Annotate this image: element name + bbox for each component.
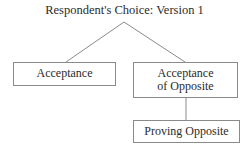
edge-title-to-acceptance-of-opposite xyxy=(124,22,185,62)
edge-title-to-acceptance xyxy=(66,22,124,62)
node-proving-opposite: Proving Opposite xyxy=(133,120,240,143)
node-acceptance-of-opposite-label: Acceptance of Opposite xyxy=(153,67,217,94)
node-acceptance-label: Acceptance xyxy=(33,67,97,81)
diagram-canvas: Respondent's Choice: Version 1 Acceptanc… xyxy=(0,0,249,148)
node-acceptance-of-opposite: Acceptance of Opposite xyxy=(133,62,238,98)
node-proving-opposite-label: Proving Opposite xyxy=(140,125,232,139)
node-acceptance: Acceptance xyxy=(13,62,116,86)
